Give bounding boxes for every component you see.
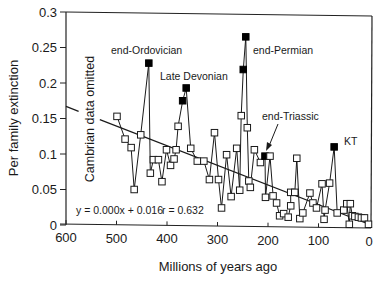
x-tick-label: 300	[207, 232, 229, 247]
data-point-marker	[257, 159, 264, 166]
data-point-marker	[233, 145, 240, 152]
data-point-marker	[251, 146, 257, 153]
data-point-marker	[163, 146, 170, 153]
data-point-marker	[319, 181, 326, 188]
data-point-marker	[273, 200, 280, 207]
data-point-marker	[122, 136, 128, 143]
x-tick-label: 0	[365, 234, 372, 249]
data-point-marker	[171, 156, 178, 163]
y-tick-label: 0.2	[39, 76, 57, 91]
annotation-kt: KT	[344, 135, 358, 147]
annotation-late-devonian: Late Devonian	[160, 70, 228, 82]
data-point-marker	[128, 144, 134, 151]
y-tick-label: 0.3	[39, 5, 57, 20]
data-point-marker	[218, 205, 225, 212]
extinction-series-line	[117, 37, 369, 225]
data-point-marker	[147, 170, 154, 177]
x-axis-title: Millions of years ago	[159, 259, 278, 274]
y-tick-label: 0.25	[32, 40, 57, 55]
data-point-marker	[137, 132, 144, 139]
data-point-marker	[361, 215, 368, 222]
plot-frame	[60, 12, 372, 228]
data-point-marker	[307, 190, 314, 197]
y-axis: 00.050.10.150.20.250.3	[32, 5, 66, 233]
data-point-marker	[211, 129, 218, 136]
data-point-marker	[334, 210, 341, 217]
data-point-marker	[347, 200, 354, 207]
data-point-marker	[155, 156, 162, 163]
data-point-marker	[321, 216, 328, 223]
y-tick-label: 0.1	[39, 147, 57, 162]
data-point-marker	[173, 146, 180, 153]
annotation-end-triassic: end-Triassic	[262, 110, 319, 122]
data-point-marker	[131, 186, 138, 193]
end-triassic-arrow-icon	[266, 124, 278, 151]
data-point-marker	[215, 176, 222, 183]
extinction-chart: 00.050.10.150.20.250.3 60050040030020010…	[0, 0, 379, 284]
extinction-event-marker	[183, 85, 190, 92]
data-point-marker	[300, 210, 307, 217]
data-point-marker	[346, 221, 353, 228]
data-point-marker	[365, 221, 372, 228]
data-point-marker	[267, 153, 274, 160]
extinction-event-marker	[240, 66, 247, 73]
data-point-marker	[201, 158, 208, 165]
x-tick-label: 400	[156, 231, 178, 246]
data-point-marker	[236, 187, 243, 194]
data-point-marker	[223, 151, 230, 158]
data-point-marker	[341, 207, 348, 214]
data-point-marker	[159, 178, 166, 185]
data-point-marker	[175, 123, 182, 130]
data-point-marker	[292, 189, 299, 196]
annotation-end-ordovician: end-Ordovician	[111, 44, 182, 56]
x-tick-label: 200	[257, 233, 279, 248]
y-tick-label: 0.05	[32, 182, 57, 197]
y-axis-title: Per family extinction	[6, 60, 21, 176]
data-point-marker	[244, 124, 251, 131]
cambrian-note: Cambrian data omitted	[83, 56, 97, 183]
x-tick-label: 600	[55, 230, 77, 245]
data-point-marker	[262, 194, 269, 201]
extinction-event-marker	[331, 144, 338, 151]
extinction-series-points	[114, 34, 372, 228]
annotation-end-permian: end-Permian	[253, 44, 313, 56]
data-point-marker	[270, 193, 277, 200]
data-point-marker	[246, 178, 253, 185]
data-point-marker	[313, 205, 320, 212]
x-tick-label: 500	[106, 231, 128, 246]
data-point-marker	[228, 193, 235, 200]
data-point-marker	[322, 207, 329, 214]
extinction-event-marker	[146, 60, 153, 66]
data-point-marker	[114, 113, 121, 120]
data-point-marker	[206, 176, 213, 183]
extinction-event-marker	[179, 98, 186, 105]
data-point-marker	[294, 155, 301, 162]
data-point-marker	[167, 162, 174, 169]
data-point-marker	[187, 145, 194, 152]
data-point-marker	[247, 184, 254, 191]
regression-equation: y = 0.000x + 0.016	[76, 204, 163, 216]
data-point-marker	[287, 203, 294, 210]
data-point-marker	[238, 112, 245, 119]
data-point-marker	[326, 180, 333, 187]
y-tick-label: 0.15	[32, 111, 57, 126]
data-point-marker	[194, 158, 201, 165]
extinction-event-marker	[243, 34, 250, 41]
data-point-marker	[285, 214, 292, 221]
x-tick-label: 100	[308, 233, 330, 248]
regression-r-value: r = 0.632	[162, 204, 204, 216]
